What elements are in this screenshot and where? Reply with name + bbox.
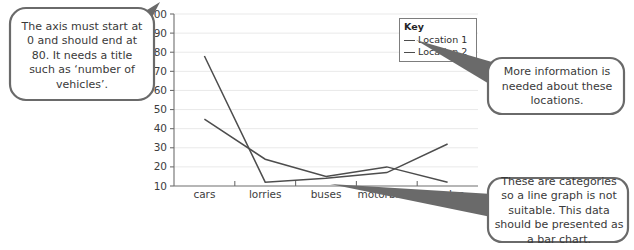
y-tick-label: 30: [154, 141, 167, 153]
y-tick-label: 40: [154, 122, 167, 134]
callout-locations-advice: More information is needed about these l…: [486, 56, 628, 118]
x-tick-label: buses: [311, 188, 342, 200]
callout-categories-text: These are categories so a line graph is …: [494, 180, 624, 242]
legend-title: Key: [404, 21, 472, 33]
callout-categories-advice: These are categories so a line graph is …: [486, 176, 632, 246]
legend-item-location-1: Location 1: [404, 34, 472, 46]
x-tick-label: lorries: [249, 188, 282, 200]
y-tick-label: 10: [154, 180, 167, 192]
legend-swatch-icon: [404, 40, 415, 41]
y-tick-label: 20: [154, 160, 167, 172]
x-tick-label: cars: [193, 188, 215, 200]
data-series: [204, 56, 447, 182]
callout-axis-advice: The axis must start at 0 and should end …: [8, 6, 160, 106]
screenshot-canvas: 102030405060708090100 carslorriesbusesmo…: [0, 0, 634, 250]
callout-axis-text: The axis must start at 0 and should end …: [18, 12, 146, 100]
callout-locations-text: More information is needed about these l…: [494, 60, 620, 114]
legend-swatch-icon: [404, 52, 415, 53]
series-line-location-2: [204, 56, 447, 182]
